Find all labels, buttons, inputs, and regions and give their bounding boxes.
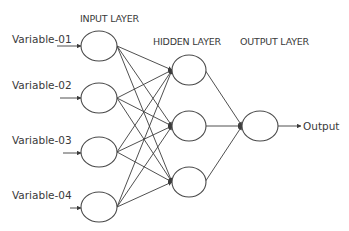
hidden-node-2 bbox=[172, 111, 206, 141]
output-layer-title: OUTPUT LAYER bbox=[240, 36, 310, 47]
input-layer-title: INPUT LAYER bbox=[80, 13, 139, 24]
hidden-node-3 bbox=[172, 167, 206, 197]
input-label-4: Variable-04 bbox=[12, 189, 72, 201]
input-node-4 bbox=[81, 192, 117, 222]
input-node-2 bbox=[81, 83, 117, 113]
input-node-1 bbox=[81, 31, 117, 61]
input-label-3: Variable-03 bbox=[12, 134, 72, 146]
output-node bbox=[242, 111, 278, 141]
input-label-1: Variable-01 bbox=[12, 33, 72, 45]
input-hidden-connections bbox=[117, 46, 172, 207]
input-arrows bbox=[57, 46, 81, 208]
input-label-2: Variable-02 bbox=[12, 79, 72, 91]
output-label: Output bbox=[303, 120, 339, 132]
hidden-node-1 bbox=[172, 55, 206, 85]
input-node-3 bbox=[81, 137, 117, 167]
hidden-layer-title: HIDDEN LAYER bbox=[153, 36, 222, 47]
neural-network-diagram: INPUT LAYER HIDDEN LAYER OUTPUT LAYER Va… bbox=[0, 0, 349, 231]
hidden-output-connections bbox=[205, 70, 242, 182]
